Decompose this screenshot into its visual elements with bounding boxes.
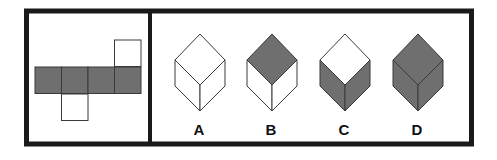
cube-net <box>35 40 141 121</box>
option-label: B <box>266 121 277 138</box>
net-cell-2 <box>62 67 89 94</box>
option-label: A <box>194 121 205 138</box>
option-label: D <box>412 121 423 138</box>
net-cell-3 <box>88 67 115 94</box>
option-a[interactable]: A <box>175 34 225 138</box>
option-c[interactable]: C <box>320 34 370 138</box>
net-cell-1 <box>35 67 62 94</box>
option-d[interactable]: D <box>393 34 443 138</box>
option-b[interactable]: B <box>247 34 297 138</box>
answer-options: ABCD <box>175 34 443 138</box>
net-cell-6 <box>62 94 89 121</box>
net-cell-5 <box>115 40 142 67</box>
cube-net-puzzle: ABCD <box>0 0 497 160</box>
option-label: C <box>339 121 350 138</box>
net-cell-4 <box>115 67 142 94</box>
